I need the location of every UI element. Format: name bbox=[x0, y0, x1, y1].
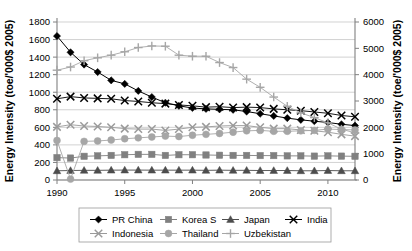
legend-item-label: PR China bbox=[112, 214, 153, 225]
data-marker-circle bbox=[135, 134, 142, 141]
data-marker-square bbox=[284, 153, 290, 159]
data-marker-circle bbox=[94, 137, 101, 144]
data-marker-square bbox=[257, 152, 263, 158]
right-axis-tick-label: 1000 bbox=[363, 148, 384, 159]
data-marker-circle bbox=[121, 135, 128, 142]
right-axis-tick-label: 6000 bbox=[363, 16, 384, 27]
left-axis-tick-label: 1600 bbox=[29, 34, 50, 45]
data-marker-square bbox=[54, 154, 60, 160]
data-marker-circle bbox=[230, 129, 237, 136]
data-marker-square bbox=[311, 153, 317, 159]
data-marker-square bbox=[81, 153, 87, 159]
data-marker-square bbox=[189, 152, 195, 158]
legend: PR ChinaKorea SJapanIndiaIndonesiaThaila… bbox=[79, 208, 331, 242]
data-marker-circle bbox=[270, 128, 277, 135]
data-marker-circle bbox=[297, 127, 304, 134]
data-marker-circle bbox=[162, 133, 169, 140]
right-axis-tick-label: 3000 bbox=[363, 95, 384, 106]
data-marker-circle bbox=[175, 133, 182, 140]
data-marker-square bbox=[122, 152, 128, 158]
data-marker-square bbox=[94, 153, 100, 159]
left-axis-tick-label: 400 bbox=[34, 139, 50, 150]
data-marker-square bbox=[162, 152, 168, 158]
left-axis-tick-label: 1200 bbox=[29, 69, 50, 80]
data-marker-circle bbox=[311, 127, 318, 134]
data-marker-square bbox=[216, 152, 222, 158]
x-axis-tick-label: 2000 bbox=[182, 187, 203, 198]
data-marker-square bbox=[271, 152, 277, 158]
data-marker-square bbox=[135, 151, 141, 157]
data-marker-square bbox=[325, 153, 331, 159]
left-axis-title: Energy Intensity (toe/'000$ 2005) bbox=[3, 20, 15, 182]
data-marker-square bbox=[298, 153, 304, 159]
data-marker-circle bbox=[108, 137, 115, 144]
legend-item-label: Korea S bbox=[182, 214, 216, 225]
right-axis-tick-label: 4000 bbox=[363, 69, 384, 80]
x-axis-tick-label: 1990 bbox=[46, 187, 67, 198]
legend-item-label: Japan bbox=[244, 214, 270, 225]
data-marker-circle bbox=[203, 131, 210, 138]
data-marker-square bbox=[243, 152, 249, 158]
right-axis-tick-label: 2000 bbox=[363, 122, 384, 133]
data-marker-circle bbox=[54, 137, 61, 144]
legend-item-label: India bbox=[307, 214, 328, 225]
data-marker-circle bbox=[165, 230, 172, 237]
left-axis-tick-label: 1400 bbox=[29, 52, 50, 63]
data-marker-square bbox=[165, 216, 171, 222]
data-marker-circle bbox=[284, 128, 291, 135]
legend-item-label: Indonesia bbox=[112, 228, 154, 239]
x-axis-tick-label: 2010 bbox=[317, 187, 338, 198]
legend-item-label: Uzbekistan bbox=[244, 228, 291, 239]
data-marker-square bbox=[352, 153, 358, 159]
data-marker-circle bbox=[257, 127, 264, 134]
left-axis-tick-label: 200 bbox=[34, 157, 50, 168]
data-marker-square bbox=[230, 152, 236, 158]
data-marker-circle bbox=[216, 130, 223, 137]
left-axis-tick-label: 0 bbox=[45, 174, 50, 185]
energy-intensity-line-chart: 0200400600800100012001400160018000100020… bbox=[0, 0, 412, 251]
left-axis-tick-label: 1800 bbox=[29, 16, 50, 27]
right-axis-tick-label: 0 bbox=[363, 174, 368, 185]
data-marker-square bbox=[108, 152, 114, 158]
legend-item-label: Thailand bbox=[182, 228, 218, 239]
data-marker-circle bbox=[148, 134, 155, 141]
data-marker-circle bbox=[67, 176, 74, 183]
data-marker-circle bbox=[81, 138, 88, 145]
data-marker-square bbox=[149, 151, 155, 157]
x-axis-tick-label: 1995 bbox=[114, 187, 135, 198]
data-marker-square bbox=[176, 152, 182, 158]
left-axis-tick-label: 1000 bbox=[29, 87, 50, 98]
right-axis-title: Energy Intensity (toe/'000$ 2005) bbox=[391, 20, 403, 182]
data-marker-square bbox=[203, 152, 209, 158]
data-marker-square bbox=[67, 155, 73, 161]
x-axis-tick-label: 2005 bbox=[250, 187, 271, 198]
chart-canvas: 0200400600800100012001400160018000100020… bbox=[0, 0, 412, 251]
data-marker-circle bbox=[243, 127, 250, 134]
left-axis-tick-label: 600 bbox=[34, 122, 50, 133]
data-marker-circle bbox=[189, 132, 196, 139]
right-axis-tick-label: 5000 bbox=[363, 43, 384, 54]
left-axis-tick-label: 800 bbox=[34, 104, 50, 115]
data-marker-square bbox=[338, 153, 344, 159]
